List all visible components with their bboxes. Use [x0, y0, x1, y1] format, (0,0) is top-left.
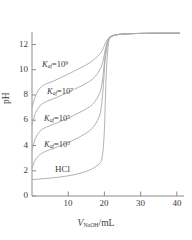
x-axis-unit: /mL	[99, 218, 115, 228]
y-axis-title: pH	[2, 92, 12, 104]
y-tick-label-4: 4	[12, 141, 28, 150]
curve-label-exponent: 5	[67, 114, 70, 120]
curve-label-exponent: 7	[70, 87, 73, 93]
x-tick-label-20: 20	[93, 199, 115, 208]
titration-curve-figure: 0 2 4 6 8 10 12 10 20 30 40 pH VNaOH/mL …	[0, 0, 192, 240]
curve-label-equals: =10	[54, 113, 67, 123]
curve-label-kaf-1e5: Kaf=105	[44, 114, 70, 123]
x-axis-title: VNaOH/mL	[0, 219, 192, 229]
curve-label-equals: =10	[54, 139, 67, 149]
titration-curves	[32, 33, 180, 179]
y-tick-label-10: 10	[8, 65, 28, 74]
y-tick-label-12: 12	[8, 40, 28, 49]
curve-label-kaf-1e7: Kaf=107	[47, 87, 73, 96]
curve-label-exponent: 9	[65, 60, 68, 66]
x-tick-label-30: 30	[130, 199, 152, 208]
y-tick-label-8: 8	[12, 90, 28, 99]
y-tick-label-6: 6	[12, 115, 28, 124]
curve-label-equals: =10	[57, 86, 70, 96]
curve-kaf-1e9	[32, 33, 180, 108]
curve-label-equals: =10	[52, 59, 65, 69]
curve-label-exponent: 3	[67, 140, 70, 146]
curve-label-hcl: HCl	[55, 165, 70, 174]
x-axis-subscript: NaOH	[83, 222, 98, 228]
curve-label-kaf-1e9: Kaf=109	[42, 60, 68, 69]
y-tick-label-0: 0	[12, 191, 28, 200]
curve-label-kaf-1e3: Kaf=103	[44, 140, 70, 149]
x-axis-ticks	[68, 192, 177, 197]
y-axis-title-text: pH	[1, 92, 11, 104]
y-tick-label-2: 2	[12, 166, 28, 175]
y-axis-ticks	[32, 45, 36, 197]
x-tick-label-10: 10	[57, 199, 79, 208]
x-tick-label-40: 40	[166, 199, 188, 208]
